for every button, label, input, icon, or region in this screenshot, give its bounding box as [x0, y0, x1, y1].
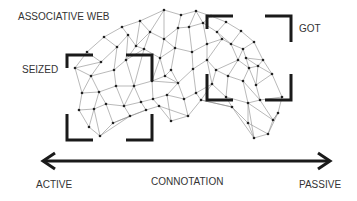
network-edge	[216, 70, 228, 76]
network-node	[152, 98, 155, 101]
network-node	[248, 67, 251, 70]
network-edge	[140, 21, 150, 32]
network-edge	[164, 10, 181, 15]
network-edge	[228, 76, 243, 81]
network-edge	[248, 103, 254, 138]
network-edge	[249, 68, 256, 85]
network-node	[206, 59, 209, 62]
network-edge	[122, 27, 128, 35]
network-node	[237, 59, 240, 62]
network-node	[112, 122, 115, 125]
network-edge	[207, 60, 216, 70]
network-edge	[226, 76, 228, 97]
network-edge	[126, 60, 134, 86]
network-node	[81, 92, 84, 95]
network-node	[90, 75, 93, 78]
network-edge	[124, 86, 134, 106]
network-edge	[248, 123, 268, 134]
network-node	[281, 96, 284, 99]
network-edge	[91, 76, 99, 92]
network-edge	[75, 68, 91, 76]
network-edge	[203, 23, 217, 32]
network-edges	[75, 10, 282, 138]
network-node	[177, 27, 180, 30]
network-node	[159, 57, 162, 60]
network-node	[245, 57, 248, 60]
network-edge	[238, 60, 249, 68]
network-edge	[243, 68, 249, 81]
network-edge	[114, 70, 116, 86]
bracket-corner-top-right	[265, 16, 291, 42]
network-node	[99, 135, 102, 138]
network-edge	[243, 49, 246, 58]
network-edge	[178, 27, 189, 28]
network-node	[74, 67, 77, 70]
network-edge	[117, 35, 128, 47]
network-edge	[152, 81, 153, 99]
network-edge	[150, 32, 164, 39]
network-node	[127, 34, 130, 37]
network-node	[98, 91, 101, 94]
network-node	[158, 105, 161, 108]
network-edge	[160, 39, 164, 58]
network-edge	[231, 31, 241, 44]
network-node	[123, 105, 126, 108]
network-edge	[238, 49, 243, 60]
network-edge	[175, 28, 178, 48]
network-node	[215, 69, 218, 72]
network-node	[200, 99, 203, 102]
network-edge	[164, 39, 175, 48]
network-node	[139, 20, 142, 23]
network-node	[277, 112, 280, 115]
network-edge	[181, 11, 196, 15]
focus-brackets	[67, 16, 291, 140]
network-node	[259, 99, 262, 102]
network-node	[140, 101, 143, 104]
network-edge	[114, 60, 126, 70]
network-node	[225, 96, 228, 99]
network-edge	[243, 81, 248, 103]
network-edge	[160, 48, 175, 58]
network-edge	[128, 35, 136, 46]
network-edge	[101, 47, 117, 62]
network-edge	[184, 99, 188, 116]
network-node	[271, 73, 274, 76]
network-edge	[114, 47, 117, 70]
network-node	[170, 69, 173, 72]
network-node	[180, 14, 183, 17]
network-edge	[144, 32, 150, 49]
network-node	[149, 31, 152, 34]
network-edge	[124, 102, 141, 106]
network-edge	[192, 52, 193, 69]
network-node	[227, 75, 230, 78]
network-edge	[232, 107, 254, 138]
network-node	[257, 65, 260, 68]
network-node	[100, 61, 103, 64]
network-edge	[258, 66, 272, 74]
network-node	[88, 126, 91, 129]
network-node	[267, 133, 270, 136]
network-edge	[260, 100, 273, 120]
network-edge	[79, 109, 94, 110]
network-node	[240, 30, 243, 33]
network-node	[253, 41, 256, 44]
network-edge	[153, 95, 167, 99]
network-node	[177, 82, 180, 85]
network-edge	[171, 116, 188, 121]
network-edge	[171, 48, 175, 70]
network-node	[247, 102, 250, 105]
network-node	[103, 36, 106, 39]
network-edge	[241, 31, 254, 42]
network-node	[242, 48, 245, 51]
network-node	[183, 98, 186, 101]
network-edge	[104, 37, 117, 47]
network-node	[188, 26, 191, 29]
seized-label: SEIZED	[22, 64, 58, 75]
network-node	[129, 115, 132, 118]
bracket-corner-bottom-right	[126, 114, 152, 140]
network-node	[231, 106, 234, 109]
network-node	[86, 51, 89, 54]
network-edge	[207, 39, 222, 60]
network-edge	[192, 44, 207, 52]
network-edge	[175, 48, 192, 52]
